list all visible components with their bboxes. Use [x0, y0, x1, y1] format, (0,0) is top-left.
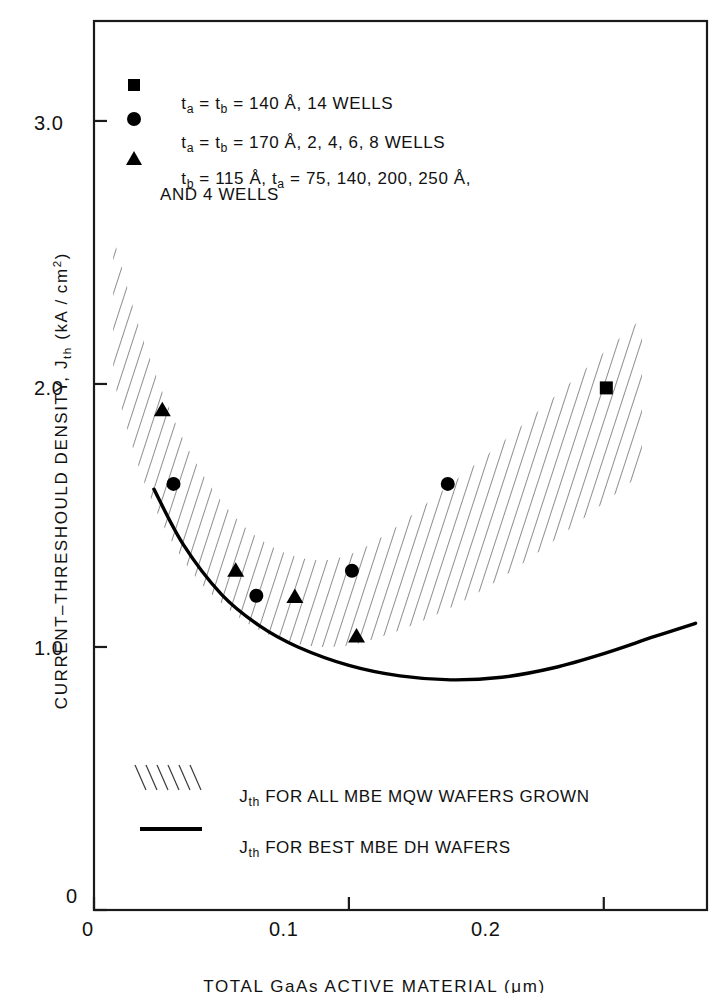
band-legend-1-text: FOR BEST MBE DH WAFERS: [260, 838, 511, 857]
xtick-label-1: 0.1: [269, 918, 298, 941]
data-point-circle: [249, 589, 263, 603]
data-point-circle: [441, 477, 455, 491]
legend-swatches: [135, 765, 202, 829]
figure-root: 3.0 2.0 1.0 0 0 0.1 0.2 TOTAL GaAs ACTIV…: [0, 0, 724, 993]
band-legend-0-text: FOR ALL MBE MQW WAFERS GROWN: [260, 787, 590, 806]
band-legend-0-sub: th: [248, 795, 259, 809]
y-axis-title-units-close: ): [52, 252, 71, 259]
legend-2-tail: = 75, 140, 200, 250 Å,: [285, 169, 471, 188]
ytick-label-3: 3.0: [34, 112, 63, 135]
legend-0-mid: = t: [194, 94, 221, 113]
y-axis-title-units-open: (kA / cm: [52, 267, 71, 346]
mqw-band: [113, 237, 642, 647]
ytick-label-0: 0: [66, 885, 78, 908]
data-point-circle: [167, 477, 181, 491]
band-legend-1-sub: th: [248, 846, 259, 860]
circle-marker-icon: [127, 112, 141, 126]
xtick-label-2: 0.2: [471, 918, 500, 941]
x-axis-title-text: TOTAL GaAs ACTIVE MATERIAL (μm): [203, 977, 545, 993]
marker-legend-glyphs: [126, 79, 142, 165]
legend-0-tail: = 140 Å, 14 WELLS: [228, 94, 393, 113]
band-legend-row-1: Jth FOR BEST MBE DH WAFERS: [218, 818, 511, 880]
y-axis-title-main: CURRENT–THRESHOULD DENSITY, J: [52, 359, 71, 709]
x-axis-title: TOTAL GaAs ACTIVE MATERIAL (μm): [0, 957, 724, 993]
y-axis-title: CURRENT–THRESHOULD DENSITY, Jth (kA / cm…: [51, 161, 72, 801]
y-axis-title-units-exp: 2: [51, 259, 63, 267]
y-axis-title-sub: th: [61, 346, 73, 359]
hatch-swatch-icon: [135, 765, 201, 790]
marker-legend-continuation: AND 4 WELLS: [160, 185, 279, 205]
triangle-marker-icon: [126, 151, 142, 165]
data-point-circle: [345, 564, 359, 578]
data-point-square: [600, 381, 613, 394]
square-marker-icon: [128, 79, 140, 91]
xtick-label-0: 0: [82, 918, 94, 941]
